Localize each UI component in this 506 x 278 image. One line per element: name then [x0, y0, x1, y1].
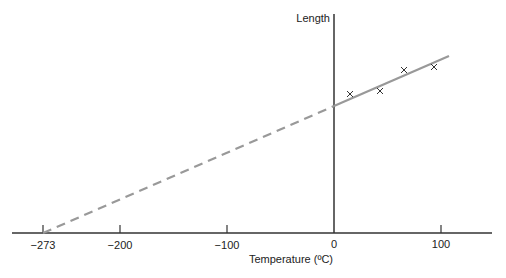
tick-label: −200 — [108, 239, 133, 251]
tick-label: 0 — [331, 238, 337, 250]
x-ticks — [43, 225, 441, 233]
y-axis-label: Length — [296, 12, 330, 24]
x-axis-label: Temperature (ºC) — [249, 253, 333, 265]
chart: −273 −200 −100 0 100 Temperature (ºC) Le… — [0, 0, 506, 278]
extrapolation-line — [43, 106, 334, 233]
tick-label: −100 — [215, 239, 240, 251]
tick-label: −273 — [31, 239, 56, 251]
fit-line — [334, 56, 449, 106]
tick-label: 100 — [432, 238, 450, 250]
